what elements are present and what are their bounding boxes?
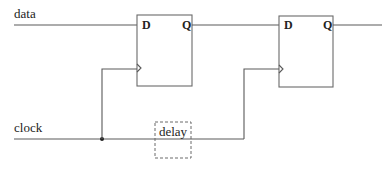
flip-flop-1-d-pin: D (142, 18, 151, 32)
clock-to-ff1-wire (102, 69, 137, 139)
clock-label: clock (14, 120, 43, 135)
delay-label: delay (159, 124, 188, 139)
flip-flop-1-q-pin: Q (182, 18, 191, 32)
flip-flop-2: D Q (279, 16, 333, 87)
clock-to-ff2-wire (244, 69, 279, 139)
flip-flop-1: D Q (137, 15, 192, 86)
data-label: data (14, 6, 36, 21)
flip-flop-2-q-pin: Q (323, 18, 332, 32)
flip-flop-2-d-pin: D (284, 18, 293, 32)
delay-element: delay (155, 122, 191, 158)
flip-flop-diagram: data D Q D Q clock delay (0, 0, 392, 171)
